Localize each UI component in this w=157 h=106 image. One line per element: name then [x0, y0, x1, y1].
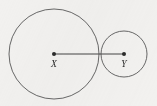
geometry-figure: X Y	[0, 0, 157, 106]
point-label-y: Y	[121, 59, 128, 69]
point-label-x: X	[50, 59, 58, 69]
center-dot-x	[52, 52, 56, 56]
center-dot-y	[122, 52, 126, 56]
figure-canvas: X Y	[0, 0, 157, 106]
